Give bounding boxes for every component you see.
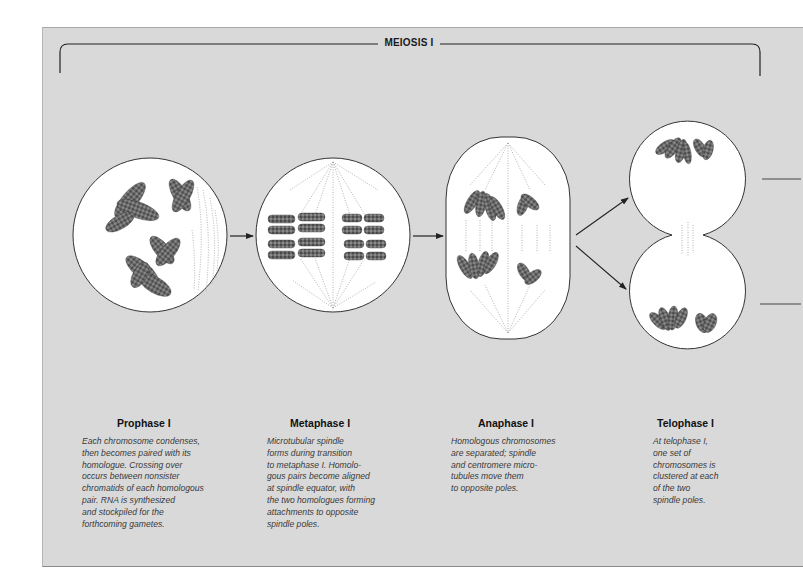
phase-metaphase: Metaphase I Microtubular spindle forms d… [267, 417, 417, 530]
phase-title: Metaphase I [290, 417, 417, 429]
phase-description: At telophase I, one set of chromosomes i… [653, 436, 763, 507]
phase-anaphase: Anaphase I Homologous chromosomes are se… [451, 417, 591, 495]
phase-title: Telophase I [657, 417, 763, 429]
metaphase-cell [256, 158, 410, 312]
phase-description: Each chromosome condenses, then becomes … [82, 436, 232, 530]
prophase-cell [73, 158, 227, 312]
phase-description: Homologous chromosomes are separated; sp… [451, 436, 591, 495]
phase-telophase: Telophase I At telophase I, one set of c… [653, 417, 763, 507]
phase-prophase: Prophase I Each chromosome condenses, th… [82, 417, 232, 530]
phase-title: Prophase I [117, 417, 232, 429]
meiosis-title: MEIOSIS I [380, 37, 438, 48]
phase-description: Microtubular spindle forms during transi… [267, 436, 417, 530]
phase-title: Anaphase I [478, 417, 591, 429]
arrow-anaphase-to-telophase-bottom [576, 246, 626, 289]
arrow-anaphase-to-telophase-top [576, 198, 628, 235]
meiosis-bracket [60, 44, 760, 76]
telophase-cell [630, 121, 746, 349]
anaphase-cell [446, 137, 570, 339]
